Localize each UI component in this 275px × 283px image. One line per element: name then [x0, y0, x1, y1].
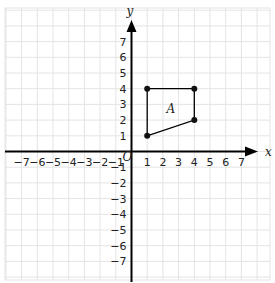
axes: xyO	[5, 4, 272, 282]
y-tick-label: 4	[120, 83, 127, 96]
y-tick-label: 7	[120, 36, 127, 49]
y-tick-label: −4	[110, 208, 126, 221]
x-tick-label: −3	[76, 156, 92, 169]
y-tick-label: −6	[110, 240, 126, 253]
x-tick-label: 4	[191, 156, 198, 169]
grid-lines	[5, 8, 270, 280]
x-tick-label: −6	[29, 156, 45, 169]
x-tick-label: 5	[207, 156, 214, 169]
x-tick-label: 1	[144, 156, 151, 169]
vertex-point	[191, 86, 197, 92]
y-tick-label: 1	[120, 130, 127, 143]
y-tick-label: −1	[110, 161, 126, 174]
vertex-point	[144, 86, 150, 92]
x-tick-label: 7	[238, 156, 245, 169]
y-tick-label: 5	[120, 67, 127, 80]
coordinate-plane: xyO −7−6−5−4−3−2−112345677654321−1−2−3−4…	[0, 0, 275, 283]
shape-label: A	[165, 102, 175, 116]
x-tick-label: −4	[61, 156, 77, 169]
x-tick-label: −5	[45, 156, 61, 169]
y-tick-label: −2	[110, 177, 126, 190]
y-tick-label: 6	[120, 51, 127, 64]
vertex-point	[144, 133, 150, 139]
x-axis-label: x	[265, 145, 272, 159]
y-tick-label: 2	[120, 114, 127, 127]
x-tick-label: 3	[175, 156, 182, 169]
y-tick-label: −5	[110, 224, 126, 237]
x-tick-label: −7	[13, 156, 29, 169]
y-axis-label: y	[126, 4, 134, 18]
y-tick-label: 3	[120, 98, 127, 111]
y-tick-label: −7	[110, 255, 126, 268]
x-tick-label: 6	[222, 156, 229, 169]
shapes: A	[144, 86, 197, 139]
x-tick-label: −2	[92, 156, 108, 169]
x-tick-label: 2	[159, 156, 166, 169]
grid-border	[5, 8, 270, 280]
y-tick-label: −3	[110, 193, 126, 206]
vertex-point	[191, 117, 197, 123]
x-axis-arrow-icon	[245, 147, 258, 157]
